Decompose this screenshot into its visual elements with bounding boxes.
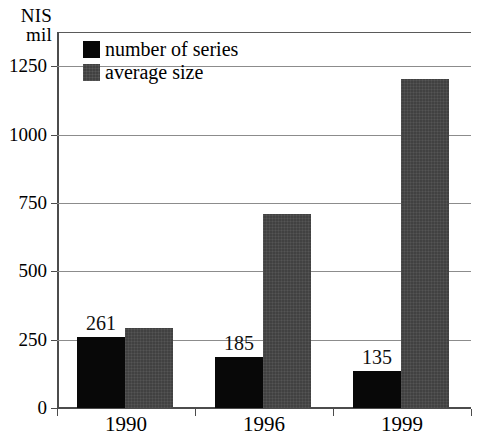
x-axis-category-label-1999: 1999 xyxy=(333,412,471,436)
bar-value-label-1999: 135 xyxy=(343,347,411,367)
bar-1999-number-of-series xyxy=(353,371,401,408)
y-axis-tick-label: 750 xyxy=(0,193,47,212)
y-axis-tick-label: 0 xyxy=(0,398,47,417)
legend-label-average-size: average size xyxy=(105,62,203,83)
bar-1990-average-size xyxy=(125,328,173,408)
x-axis-tick xyxy=(471,409,472,416)
y-axis-title: NIS mil xyxy=(0,6,52,44)
bar-1990-number-of-series xyxy=(77,337,125,408)
y-axis-title-line-1: NIS xyxy=(21,5,52,26)
y-axis-tick-label: 1000 xyxy=(0,125,47,144)
legend-item-number-of-series: number of series xyxy=(83,38,238,61)
y-axis-tick-label: 1250 xyxy=(0,56,47,75)
legend: number of series average size xyxy=(83,38,238,84)
bar-chart: NIS mil 025050075010001250 261185135 199… xyxy=(0,0,479,439)
y-axis-title-line-2: mil xyxy=(0,25,52,44)
legend-swatch-icon-average-size xyxy=(83,64,100,81)
bar-value-label-1990: 261 xyxy=(67,313,135,333)
bar-1996-number-of-series xyxy=(215,357,263,408)
y-axis-tick-label: 500 xyxy=(0,261,47,280)
x-axis-category-label-1996: 1996 xyxy=(195,412,333,436)
legend-label-number-of-series: number of series xyxy=(105,39,238,60)
bar-value-label-1996: 185 xyxy=(205,333,273,353)
y-axis-tick-label: 250 xyxy=(0,330,47,349)
plot-bars: 261185135 xyxy=(57,32,471,408)
legend-item-average-size: average size xyxy=(83,61,238,84)
x-axis-category-label-1990: 1990 xyxy=(57,412,195,436)
bar-1996-average-size xyxy=(263,214,311,408)
legend-swatch-icon-number-of-series xyxy=(83,41,100,58)
